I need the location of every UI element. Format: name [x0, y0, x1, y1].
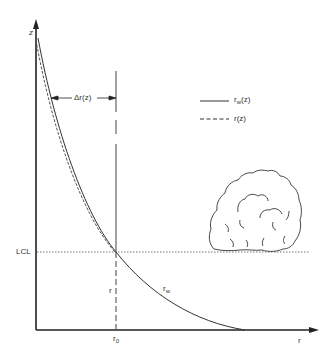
x-axis-label: r	[298, 337, 301, 345]
lcl-label: LCL	[16, 248, 31, 256]
legend-solid-sub: w	[237, 99, 241, 105]
r-curve	[36, 40, 115, 252]
delta-r-label: Δr(z)	[74, 94, 91, 102]
rw-curve-label: rw	[163, 285, 170, 293]
legend-solid-label: rw(z)	[234, 96, 250, 104]
rw-curve	[38, 38, 245, 330]
x-axis	[36, 327, 319, 333]
y-axis	[33, 19, 39, 330]
legend-solid-rest: (z)	[241, 95, 250, 104]
r0-label: r0	[113, 335, 119, 343]
y-axis-label: z	[29, 29, 33, 37]
r0-subscript: 0	[116, 338, 119, 344]
cloud-icon	[209, 170, 301, 251]
legend-dashed-label: r(z)	[234, 115, 246, 123]
r-curve-label: r	[109, 287, 112, 295]
cloud-entrainment-diagram	[0, 0, 331, 359]
rw-subscript: w	[166, 288, 170, 294]
